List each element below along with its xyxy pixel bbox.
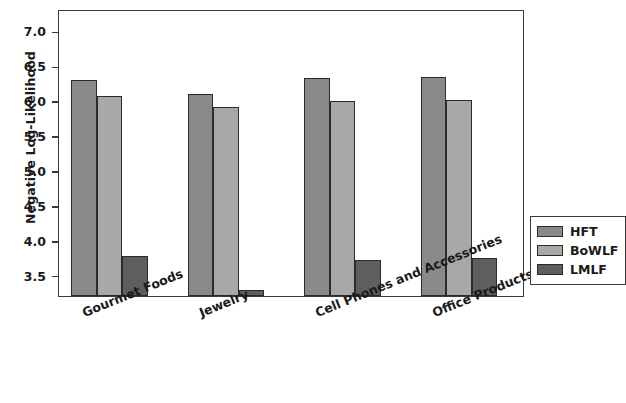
legend-label: LMLF (570, 262, 607, 277)
legend-label: HFT (570, 224, 598, 239)
legend-item: LMLF (537, 260, 618, 279)
y-tick-label: 6.0 (24, 93, 46, 111)
legend-item: HFT (537, 222, 618, 241)
legend-label: BoWLF (570, 243, 618, 258)
bar (213, 107, 239, 296)
y-tick-label: 5.5 (24, 128, 46, 146)
bar (188, 94, 214, 297)
bar (97, 96, 123, 296)
legend-item: BoWLF (537, 241, 618, 260)
y-tick-label: 6.5 (24, 58, 46, 76)
bar (304, 78, 330, 296)
bar (71, 80, 97, 296)
legend-swatch (537, 264, 563, 275)
legend-swatch (537, 226, 563, 237)
y-tick-label: 7.0 (24, 23, 46, 41)
y-tick-label: 5.0 (24, 163, 46, 181)
bar (330, 101, 356, 296)
y-tick-label: 3.5 (24, 268, 46, 286)
y-tick-label: 4.5 (24, 198, 46, 216)
legend: HFTBoWLFLMLF (530, 216, 626, 285)
bar-chart-figure: Negative Log-Likelihood 3.54.04.55.05.56… (0, 0, 626, 403)
y-tick-label: 4.0 (24, 233, 46, 251)
legend-swatch (537, 245, 563, 256)
